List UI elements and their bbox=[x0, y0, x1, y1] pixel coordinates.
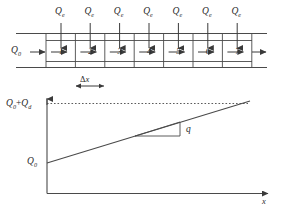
lateral-inflow-label: Qe bbox=[114, 7, 124, 18]
cell-number: 3 bbox=[115, 47, 125, 56]
inlet-discharge-label: Q0 bbox=[11, 46, 21, 57]
figure-container: Qe Qe Qe Qe Qe Qe Qe Q0 1 2 3 4 5 6 7 Δx… bbox=[0, 0, 283, 211]
figure-drawing bbox=[0, 0, 283, 211]
slope-label: q bbox=[186, 124, 191, 134]
start-level-subscript: 0 bbox=[34, 161, 37, 168]
lateral-inflow-label: Qe bbox=[202, 7, 212, 18]
cell-number: 1 bbox=[56, 47, 66, 56]
lateral-inflow-label: Qe bbox=[173, 7, 183, 18]
cell-number: 6 bbox=[203, 47, 213, 56]
discharge-plot bbox=[47, 98, 268, 194]
plot-start-level-label: Q0 bbox=[27, 157, 37, 168]
cell-number: 4 bbox=[144, 47, 154, 56]
inlet-discharge-symbol: Q bbox=[11, 45, 18, 55]
top-level-symbol-1: Q bbox=[6, 98, 13, 108]
lateral-inflow-subscript: e bbox=[121, 11, 124, 18]
lateral-inflow-subscript: e bbox=[150, 11, 153, 18]
cell-number: 5 bbox=[174, 47, 184, 56]
lateral-inflow-symbol: Q bbox=[55, 6, 62, 16]
plot-top-level-label: Q0+Qd bbox=[6, 99, 31, 110]
lateral-inflow-symbol: Q bbox=[114, 6, 121, 16]
top-level-subscript-2: d bbox=[28, 103, 31, 110]
lateral-inflow-symbol: Q bbox=[202, 6, 209, 16]
lateral-inflow-subscript: e bbox=[62, 11, 65, 18]
lateral-inflow-label: Qe bbox=[84, 7, 94, 18]
inlet-discharge-subscript: 0 bbox=[18, 50, 21, 57]
slope-triangle-hypotenuse bbox=[135, 122, 180, 136]
cell-number: 2 bbox=[85, 47, 95, 56]
x-axis-label: x bbox=[262, 196, 266, 206]
lateral-inflow-subscript: e bbox=[91, 11, 94, 18]
lateral-inflow-label: Qe bbox=[231, 7, 241, 18]
delta-x-label: Δx bbox=[80, 74, 89, 84]
lateral-inflow-subscript: e bbox=[179, 11, 182, 18]
lateral-inflow-subscript: e bbox=[209, 11, 212, 18]
channel-schematic bbox=[16, 23, 267, 86]
cell-number: 7 bbox=[232, 47, 242, 56]
lateral-inflow-label: Qe bbox=[55, 7, 65, 18]
delta-x-variable: x bbox=[85, 74, 89, 84]
lateral-inflow-label: Qe bbox=[143, 7, 153, 18]
lateral-inflow-subscript: e bbox=[238, 11, 241, 18]
start-level-symbol: Q bbox=[27, 156, 34, 166]
